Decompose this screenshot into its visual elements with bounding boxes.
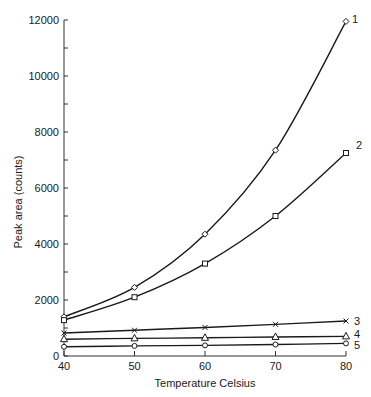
triangle-marker — [61, 335, 68, 342]
series-label: 5 — [354, 339, 360, 351]
y-tick-label: 10000 — [28, 70, 59, 82]
x-tick-label: 80 — [340, 360, 352, 372]
diamond-marker — [132, 284, 138, 290]
triangle-marker — [131, 334, 138, 341]
series-2: 2 — [62, 139, 363, 323]
square-marker — [132, 295, 137, 300]
x-tick-label: 40 — [58, 360, 70, 372]
y-tick-label: 12000 — [28, 14, 59, 26]
triangle-marker — [343, 332, 350, 339]
series-line — [64, 21, 346, 316]
circle-marker — [273, 342, 278, 347]
series-3: 3 — [62, 315, 361, 336]
series-1: 1 — [61, 13, 358, 319]
circle-marker — [62, 344, 67, 349]
y-axis-label: Peak area (counts) — [12, 156, 24, 249]
y-tick-label: 6000 — [35, 182, 59, 194]
series-4: 4 — [61, 328, 361, 341]
circle-marker — [344, 341, 349, 346]
y-tick-label: 4000 — [35, 238, 59, 250]
circle-marker — [132, 343, 137, 348]
diamond-marker — [343, 18, 349, 24]
series-label: 1 — [352, 13, 358, 25]
series-label: 2 — [356, 139, 362, 151]
triangle-marker — [202, 334, 209, 341]
chart-series: 12345 — [61, 13, 363, 351]
square-marker — [273, 214, 278, 219]
square-marker — [62, 318, 67, 323]
square-marker — [203, 261, 208, 266]
line-chart: 0200040006000800010000120004050607080 12… — [0, 0, 371, 397]
circle-marker — [203, 343, 208, 348]
series-label: 3 — [354, 315, 360, 327]
chart-axes: 0200040006000800010000120004050607080 — [28, 14, 352, 372]
x-tick-label: 60 — [199, 360, 211, 372]
x-tick-label: 50 — [128, 360, 140, 372]
series-5: 5 — [62, 339, 361, 351]
triangle-marker — [272, 333, 279, 340]
y-tick-label: 2000 — [35, 294, 59, 306]
y-tick-label: 8000 — [35, 126, 59, 138]
x-axis-label: Temperature Celsius — [155, 377, 256, 389]
x-tick-label: 70 — [269, 360, 281, 372]
square-marker — [344, 151, 349, 156]
